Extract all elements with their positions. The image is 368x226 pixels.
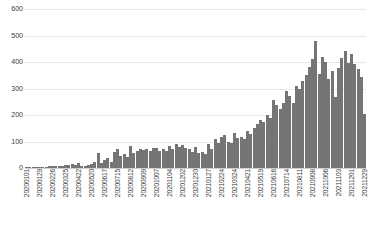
plot-area [25, 9, 366, 168]
bar-series [25, 9, 366, 168]
bar [363, 114, 366, 168]
y-tick-label: 0 [0, 164, 23, 171]
y-tick-label: 300 [0, 85, 23, 92]
x-tick-slot: 20211229 [363, 169, 366, 226]
y-tick-label: 600 [0, 5, 23, 12]
x-tick-label: 20211229 [361, 169, 368, 197]
bar-chart: 0100200300400500600 20200101202001292020… [0, 0, 368, 226]
y-tick-label: 500 [0, 32, 23, 39]
y-tick-label: 400 [0, 58, 23, 65]
x-axis: 2020010120200129202002262020032520200422… [25, 169, 366, 226]
y-axis: 0100200300400500600 [0, 0, 23, 226]
y-tick-label: 100 [0, 138, 23, 145]
y-tick-label: 200 [0, 111, 23, 118]
